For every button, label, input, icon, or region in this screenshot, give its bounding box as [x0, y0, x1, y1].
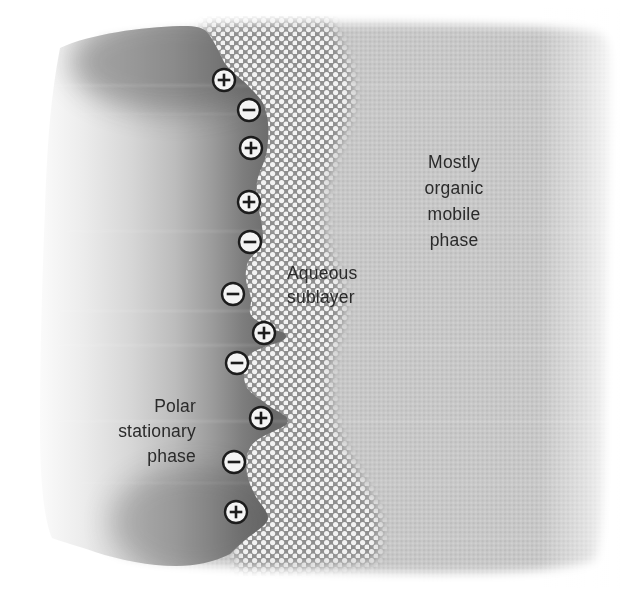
plus-charge-icon — [240, 137, 262, 159]
plus-charge-icon — [250, 407, 272, 429]
page-fade-right — [538, 8, 627, 588]
figure-canvas: PolarstationaryphaseAqueoussublayerMostl… — [0, 0, 627, 596]
minus-charge-icon — [223, 451, 245, 473]
hilic-phase-diagram: PolarstationaryphaseAqueoussublayerMostl… — [0, 0, 627, 596]
plus-charge-icon — [253, 322, 275, 344]
minus-charge-icon — [226, 352, 248, 374]
plus-charge-icon — [238, 191, 260, 213]
minus-charge-icon — [222, 283, 244, 305]
minus-charge-icon — [239, 231, 261, 253]
minus-charge-icon — [238, 99, 260, 121]
plus-charge-icon — [225, 501, 247, 523]
plus-charge-icon — [213, 69, 235, 91]
